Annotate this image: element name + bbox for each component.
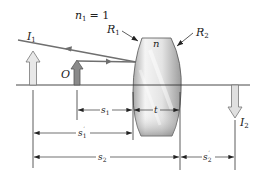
dimension-s1-prime: s1′: [34, 125, 132, 139]
medium-index-label: n1= 1: [75, 9, 109, 23]
final-image-arrow: [228, 85, 242, 118]
ray-2: [78, 59, 136, 65]
dimension-s1: s1: [78, 105, 132, 116]
r1-leader: [122, 31, 138, 41]
lens: [133, 38, 181, 136]
dimension-s2-prime: s2′: [181, 149, 234, 163]
dimension-s2: s2: [34, 152, 179, 163]
object-arrow: [71, 60, 83, 85]
object-label: O: [61, 68, 70, 81]
svg-text:s1: s1: [101, 105, 109, 116]
r2-leader: [177, 33, 193, 46]
surface-r1-label: R1: [106, 23, 120, 37]
svg-text:s1′: s1′: [78, 125, 86, 139]
final-image-label: I2: [239, 116, 249, 130]
svg-text:s2′: s2′: [203, 149, 212, 163]
svg-text:s2: s2: [98, 152, 107, 163]
lens-index-label: n: [153, 38, 159, 49]
surface-r2-label: R2: [195, 26, 209, 40]
thick-lens-diagram: n1= 1 n I1 O I2 R1 R2: [0, 0, 259, 180]
svg-text:t: t: [154, 105, 158, 115]
intermediate-image-label: I1: [26, 30, 36, 44]
intermediate-image-arrow: [26, 51, 40, 85]
